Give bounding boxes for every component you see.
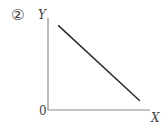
figure: ② Y 0 X <box>0 0 166 128</box>
data-line <box>58 25 140 100</box>
plot-area <box>0 0 166 128</box>
